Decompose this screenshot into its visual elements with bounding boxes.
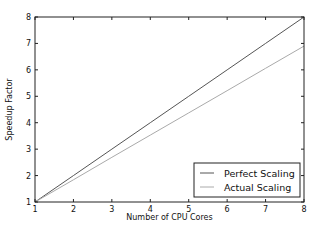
x-tick-label: 6 [225, 205, 230, 214]
y-tick-label: 3 [26, 145, 31, 154]
y-tick-label: 6 [26, 66, 31, 75]
x-tick-label: 1 [32, 205, 37, 214]
x-tick-label: 8 [301, 205, 306, 214]
y-tick-label: 8 [26, 13, 31, 22]
y-tick-label: 7 [26, 39, 31, 48]
legend: Perfect Scaling Actual Scaling [194, 163, 300, 197]
speedup-chart: 12345678 12345678 Number of CPU Cores Sp… [0, 0, 321, 234]
y-tick-label: 2 [26, 172, 31, 181]
legend-label-perfect: Perfect Scaling [224, 168, 295, 179]
y-tick-label: 5 [26, 92, 31, 101]
legend-label-actual: Actual Scaling [224, 182, 291, 193]
x-tick-label: 3 [109, 205, 114, 214]
x-tick-label: 2 [71, 205, 76, 214]
x-axis-label: Number of CPU Cores [126, 213, 212, 222]
x-tick-label: 7 [263, 205, 268, 214]
y-tick-label: 1 [26, 198, 31, 207]
y-tick-label: 4 [26, 119, 31, 128]
y-axis-label: Speedup Factor [5, 78, 14, 141]
